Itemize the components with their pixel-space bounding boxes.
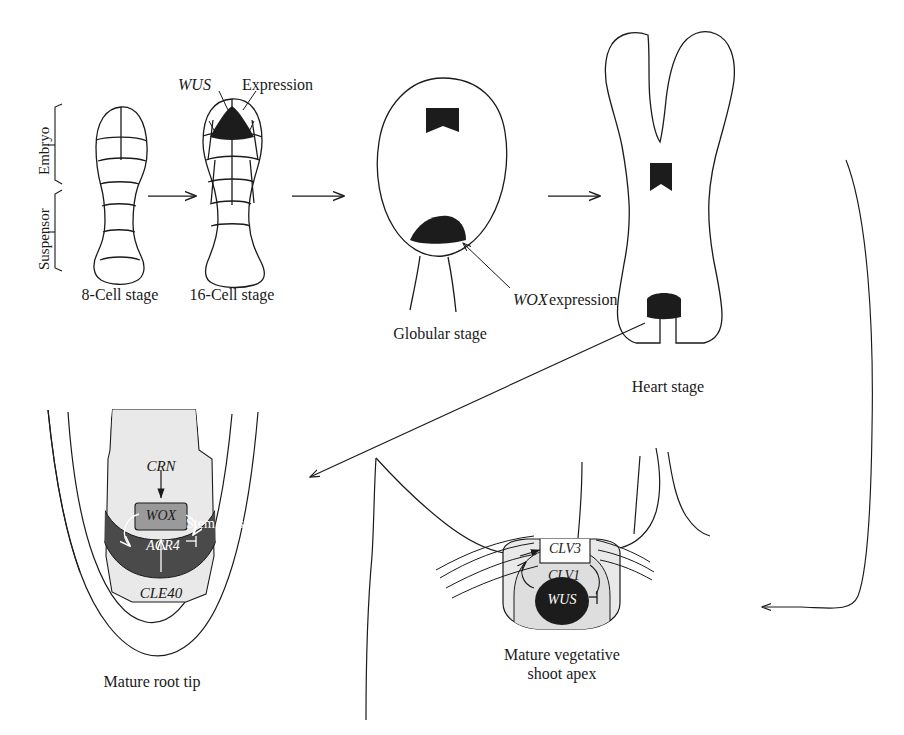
developmental-stages-diagram: Embryo Suspensor WUS Expression WOX expr… (0, 0, 904, 735)
wus-gene-label: WUS (178, 76, 211, 94)
caption-16-cell-stage: 16-Cell stage (190, 286, 275, 304)
axis-label-embryo: Embryo (36, 127, 53, 175)
caption-8-cell-stage: 8-Cell stage (82, 286, 159, 304)
shoot-label-clv3: CLV3 (549, 541, 581, 557)
caption-mature-root-tip: Mature root tip (104, 673, 201, 691)
shoot-label-clv1: CLV1 (548, 568, 580, 584)
root-label-crn: CRN (146, 458, 175, 475)
root-label-cle40: CLE40 (140, 585, 183, 602)
caption-shoot-apex-line1: Mature vegetative (504, 646, 620, 664)
root-label-wox: WOX (146, 508, 176, 524)
arrow-heart-to-shoot (762, 160, 872, 608)
root-label-stem-cells: Stem cells (186, 516, 244, 532)
root-label-acr4: ACR4 (146, 538, 179, 554)
caption-shoot-apex-line2: shoot apex (528, 665, 597, 683)
embryo-globular (377, 78, 506, 312)
axis-label-suspensor: Suspensor (36, 208, 53, 270)
caption-heart-stage: Heart stage (632, 378, 704, 396)
wus-expression-domain-heart (650, 163, 672, 191)
wox-leader-line (463, 243, 510, 288)
wox-expression-domain-globular (410, 216, 466, 244)
root-tip-zones (96, 409, 224, 602)
embryo-heart (605, 32, 734, 343)
wox-expression-word-label: expression (549, 291, 617, 309)
caption-globular-stage: Globular stage (393, 325, 487, 343)
shoot-apex-dome (436, 536, 654, 632)
embryo-8cell (94, 107, 147, 284)
shoot-label-wus: WUS (548, 592, 577, 608)
wox-gene-label: WOX (513, 291, 548, 309)
expression-label: Expression (242, 76, 313, 94)
arrow-heart-to-root (310, 323, 645, 477)
diagram-canvas (0, 0, 904, 735)
wus-expression-domain-globular (426, 108, 459, 133)
wus-expression-domain-16cell (210, 106, 254, 140)
wox-expression-domain-heart (647, 293, 681, 319)
